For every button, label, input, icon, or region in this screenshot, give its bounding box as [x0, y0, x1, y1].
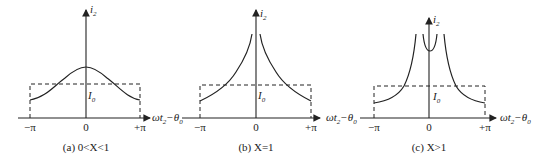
caption-c: (c) X>1: [412, 141, 447, 154]
figure: i2 I0 ωt2−θ0 −π 0 +π (a) 0<X<1 i2 I0 ωt2…: [0, 0, 542, 166]
level-label: I0: [87, 89, 96, 104]
caption-a: (a) 0<X<1: [63, 141, 109, 154]
current-curve-left: [200, 34, 252, 101]
tick-minus-pi: −π: [194, 121, 206, 133]
panel-a: i2 I0 ωt2−θ0 −π 0 +π (a) 0<X<1: [18, 3, 183, 154]
x-axis-label: ωt2−θ0: [326, 111, 357, 126]
current-curve-center: [423, 34, 437, 51]
average-level-box: [30, 84, 140, 118]
y-axis-label: i2: [433, 13, 440, 28]
panel-c: i2 I0 ωt2−θ0 −π 0 +π (c) X>1: [360, 13, 531, 154]
panel-b: i2 I0 ωt2−θ0 −π 0 +π (b) X=1: [182, 7, 357, 154]
tick-zero: 0: [83, 121, 89, 133]
y-axis-label: i2: [90, 3, 97, 18]
tick-plus-pi: +π: [479, 121, 491, 133]
current-curve-left: [374, 34, 416, 103]
tick-plus-pi: +π: [134, 121, 146, 133]
current-curve-right: [444, 34, 485, 103]
level-label: I0: [432, 90, 441, 105]
tick-plus-pi: +π: [305, 121, 317, 133]
tick-zero: 0: [253, 121, 259, 133]
current-curve-right: [260, 34, 311, 101]
tick-minus-pi: −π: [24, 121, 36, 133]
x-axis-label: ωt2−θ0: [152, 111, 183, 126]
tick-minus-pi: −π: [368, 121, 380, 133]
caption-b: (b) X=1: [238, 141, 273, 154]
x-axis-label: ωt2−θ0: [500, 111, 531, 126]
tick-zero: 0: [426, 121, 432, 133]
y-axis-label: i2: [260, 7, 267, 22]
level-label: I0: [257, 89, 266, 104]
